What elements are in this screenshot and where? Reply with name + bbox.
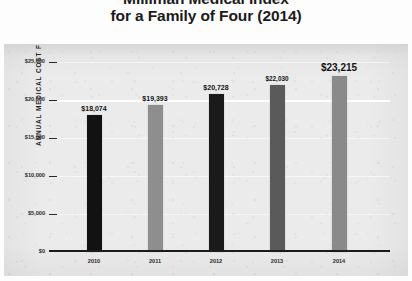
bar	[332, 76, 347, 252]
y-tick-mark	[49, 100, 57, 101]
y-tick-mark	[49, 138, 57, 139]
bar	[270, 85, 285, 252]
x-axis-line	[49, 250, 390, 252]
chart-title: Milliman Medical Index for a Family of F…	[0, 0, 412, 24]
x-axis-label: 2011	[149, 258, 161, 264]
x-axis-label: 2013	[271, 258, 283, 264]
x-axis-label: 2014	[333, 258, 345, 264]
y-tick-label: $15,000	[25, 134, 45, 140]
bar-value-label: $22,030	[265, 75, 288, 82]
y-tick-label: $5,000	[28, 210, 45, 216]
y-tick-label: $10,000	[25, 172, 45, 178]
y-tick-label: $20,000	[25, 96, 45, 102]
bar-value-label: $19,393	[142, 95, 167, 102]
y-tick-label: $25,000	[25, 58, 45, 64]
chart-title-line-1: Milliman Medical Index	[0, 0, 412, 7]
paper-shadow-band	[4, 44, 408, 56]
bar	[209, 94, 224, 252]
plot-area: ANNUAL MEDICAL COST FOR FAMILY OF FOUR $…	[57, 62, 390, 252]
bar-value-label: $23,215	[321, 62, 357, 73]
y-tick-label: $0	[39, 248, 45, 254]
chart-title-line-2: for a Family of Four (2014)	[0, 7, 412, 24]
x-axis-label: 2010	[88, 258, 100, 264]
bar	[87, 115, 102, 252]
bar	[148, 105, 163, 252]
bar-value-label: $18,074	[81, 105, 106, 112]
bar-value-label: $20,728	[203, 84, 228, 91]
x-axis-label: 2012	[210, 258, 222, 264]
y-tick-mark	[49, 62, 57, 63]
y-tick-mark	[49, 176, 57, 177]
chart-screenshot: Milliman Medical Index for a Family of F…	[0, 0, 412, 281]
y-tick-mark	[49, 214, 57, 215]
chart-panel: ANNUAL MEDICAL COST FOR FAMILY OF FOUR $…	[4, 44, 408, 276]
